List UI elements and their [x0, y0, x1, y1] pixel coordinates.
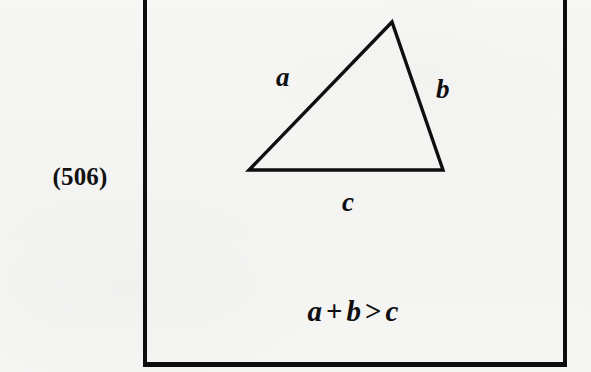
figure-root: (506) a b c a+b>c [0, 0, 591, 372]
inequality-plus-operator: + [322, 295, 347, 327]
triangle-side-label-b: b [436, 76, 450, 103]
triangle-side-label-a: a [276, 64, 290, 91]
inequality-statement: a+b>c [143, 296, 563, 328]
inequality-greater-than-operator: > [361, 295, 386, 327]
inequality-term-b: b [347, 295, 362, 327]
triangle-shape [249, 22, 443, 170]
inequality-term-a: a [308, 295, 323, 327]
triangle-side-label-c: c [342, 189, 354, 216]
figure-number-label: (506) [38, 164, 122, 189]
inequality-term-c: c [386, 295, 399, 327]
